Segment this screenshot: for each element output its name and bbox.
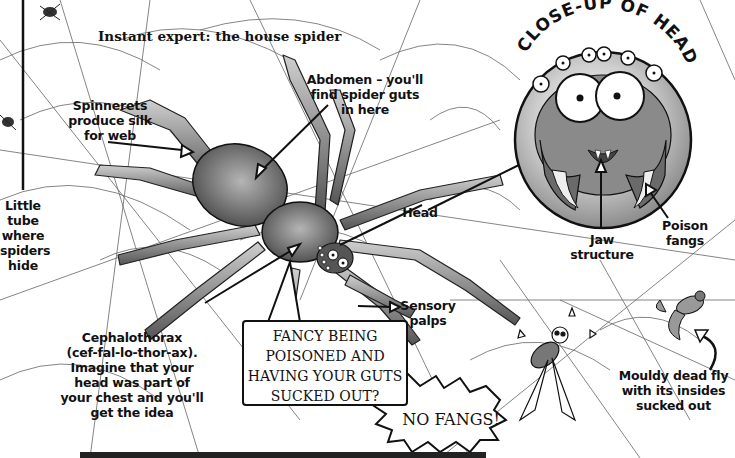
label-tube: Littletubewherespidershide [0, 198, 46, 273]
bottom-border-bar [80, 452, 486, 458]
small-spider-top [40, 4, 60, 20]
illustration-canvas: CLOSE-UP OF HEAD Instant expert: the hou… [0, 0, 735, 458]
no-fangs-text: NO FANGS! [396, 410, 506, 429]
label-dead-fly: Mouldy dead flywith its insidessucked ou… [612, 368, 735, 413]
label-abdomen: Abdomen – you'llfind spider gutsin here [300, 72, 430, 117]
label-jaw-structure: Jawstructure [565, 232, 639, 262]
label-cephalothorax: Cephalothorax(cef-fal-lo-thor-ax).Imagin… [52, 330, 212, 420]
speech-bubble: FANCY BEINGPOISONED ANDHAVING YOUR GUTSS… [242, 320, 408, 406]
label-poison-fangs: Poisonfangs [655, 218, 715, 248]
small-spider-left [0, 115, 16, 130]
label-spinnerets: Spinneretsproduce silkfor web [60, 98, 160, 143]
page-title: Instant expert: the house spider [98, 28, 341, 44]
label-head: Head [395, 205, 445, 220]
